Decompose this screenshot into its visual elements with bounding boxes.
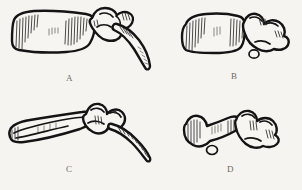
panel-label-b: B [231,72,237,81]
panel-label-a: A [66,74,73,83]
vertebrae-illustration-svg [0,0,302,190]
panel-a-centrum-fill [12,11,95,53]
panel-c-arch-dot [114,111,117,114]
panel-b-centrum-fill [182,14,245,53]
panel-label-c: C [66,165,72,174]
figure-plate: A B C D [0,0,302,190]
panel-label-d: D [227,165,234,174]
